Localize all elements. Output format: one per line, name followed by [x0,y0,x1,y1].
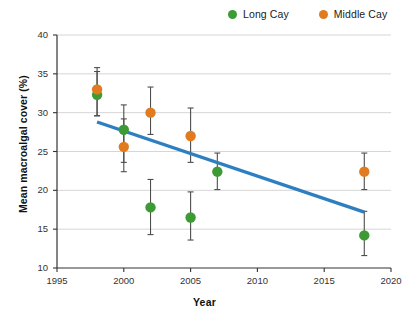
data-point-marker[interactable] [145,107,155,117]
data-point-marker[interactable] [92,84,102,94]
y-tick-label: 25 [37,146,48,157]
data-point-marker[interactable] [185,131,195,141]
data-point-marker[interactable] [145,202,155,212]
x-tick-label: 2015 [314,275,335,286]
x-tick-label: 2020 [380,275,401,286]
y-tick-label: 10 [37,262,48,273]
y-axis-title: Mean macroalgal cover (%) [17,75,29,213]
data-point-marker[interactable] [119,125,129,135]
data-point-marker[interactable] [212,166,222,176]
x-tick-label: 2010 [247,275,268,286]
legend-marker-middle-cay-icon [319,10,328,19]
legend-label-long-cay: Long Cay [243,8,289,20]
y-tick-label: 15 [37,223,48,234]
data-point-marker[interactable] [359,230,369,240]
legend-marker-long-cay-icon [228,10,237,19]
x-tick-label: 2000 [113,275,134,286]
y-tick-label: 35 [37,68,48,79]
y-tick-label: 40 [37,29,48,40]
x-tick-label: 1995 [46,275,67,286]
x-tick-label: 2005 [180,275,201,286]
data-point-marker[interactable] [119,142,129,152]
legend-label-middle-cay: Middle Cay [334,8,388,20]
plot-area [0,0,409,318]
y-tick-label: 20 [37,184,48,195]
x-axis-title: Year [0,296,409,308]
data-point-marker[interactable] [359,166,369,176]
chart-legend: Long Cay Middle Cay [228,8,387,20]
legend-item-long-cay[interactable]: Long Cay [228,8,289,20]
trend-line [97,122,364,212]
legend-item-middle-cay[interactable]: Middle Cay [319,8,388,20]
y-tick-label: 30 [37,107,48,118]
chart-figure: Long Cay Middle Cay Mean macroalgal cove… [0,0,409,318]
data-point-marker[interactable] [185,212,195,222]
